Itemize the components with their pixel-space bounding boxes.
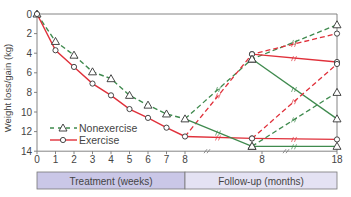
triangle-marker	[333, 88, 341, 95]
circle-marker	[108, 93, 113, 98]
circle-marker	[34, 11, 39, 16]
y-tick-label: 12	[21, 126, 33, 137]
y-axis-label: Weight loss/gain (kg)	[2, 44, 13, 133]
x-tick-label: 7	[164, 154, 170, 165]
followup-lines	[185, 21, 341, 150]
phase-followup-label: Follow-up (months)	[218, 176, 304, 187]
x-tick-label: 5	[127, 154, 133, 165]
x-tick-label: 3	[90, 154, 96, 165]
legend-nonexercise-label: Nonexercise	[79, 122, 138, 134]
followup-line-exercise	[185, 34, 337, 137]
phase-treatment-label: Treatment (weeks)	[70, 176, 153, 187]
treatment-line-nonexercise	[37, 14, 185, 119]
x-tick-label: 8	[182, 154, 188, 165]
x-tick-label: 6	[145, 154, 151, 165]
followup-line-nonexercise	[252, 59, 337, 119]
x-tick-label: 0	[34, 154, 40, 165]
y-tick-label: 6	[26, 67, 32, 78]
circle-marker	[164, 125, 169, 130]
legend: NonexerciseExercise	[50, 122, 138, 146]
triangle-marker	[333, 21, 341, 28]
x-tick-label: 18	[331, 154, 343, 165]
weight-change-chart: 02468101214012345678818 NonexerciseExerc…	[0, 0, 351, 197]
circle-marker	[71, 64, 76, 69]
legend-exercise-label: Exercise	[79, 134, 119, 146]
y-tick-label: 8	[26, 87, 32, 98]
circle-marker	[90, 81, 95, 86]
x-tick-label: 1	[53, 154, 59, 165]
x-tick-label: 4	[108, 154, 114, 165]
circle-marker	[53, 48, 58, 53]
circle-marker	[249, 136, 254, 141]
circle-marker	[60, 137, 65, 142]
triangle-marker	[70, 51, 78, 58]
triangle-marker	[333, 115, 341, 122]
followup-line-exercise	[252, 64, 337, 138]
followup-line-exercise	[185, 137, 337, 140]
circle-marker	[334, 31, 339, 36]
circle-marker	[182, 134, 187, 139]
triangle-marker	[144, 101, 152, 108]
circle-marker	[334, 137, 339, 142]
circle-marker	[145, 115, 150, 120]
x-tick-label: 8	[259, 154, 265, 165]
phase-band: Treatment (weeks)Follow-up (months)	[37, 172, 337, 189]
y-tick-label: 4	[26, 48, 32, 59]
y-tick-label: 2	[26, 28, 32, 39]
triangle-marker	[52, 37, 60, 44]
triangle-marker	[163, 110, 171, 117]
y-tick-label: 10	[21, 107, 33, 118]
circle-marker	[334, 61, 339, 66]
y-tick-label: 14	[21, 146, 33, 157]
followup-line-nonexercise	[185, 119, 337, 146]
treatment-lines	[33, 10, 189, 139]
circle-marker	[127, 106, 132, 111]
x-tick-label: 2	[71, 154, 77, 165]
y-tick-label: 0	[26, 9, 32, 20]
